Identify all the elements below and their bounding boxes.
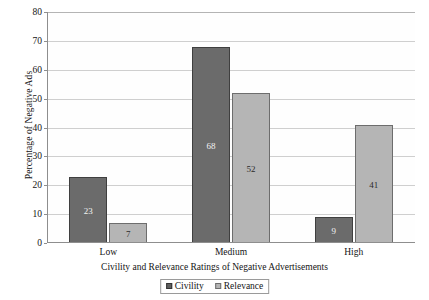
legend-label: Civility: [175, 281, 204, 291]
bar-value-label: 52: [233, 165, 269, 174]
gridline: 70: [47, 41, 415, 42]
bar-medium-relevance: 52: [232, 93, 270, 243]
y-tick-label: 40: [33, 123, 43, 133]
chart-legend: CivilityRelevance: [160, 279, 270, 294]
bar-medium-civility: 68: [192, 47, 230, 243]
bar-value-label: 68: [193, 142, 229, 151]
y-tick-label: 30: [33, 151, 43, 161]
legend-swatch-relevance-icon: [215, 283, 221, 289]
y-tick-label: 20: [33, 180, 43, 190]
x-category-medium: Medium: [215, 247, 247, 257]
bar-value-label: 9: [316, 227, 352, 236]
legend-item-relevance[interactable]: Relevance: [215, 281, 264, 291]
y-tick-mark: [44, 243, 47, 244]
y-tick-label: 10: [33, 209, 43, 219]
gridline: 80: [47, 12, 415, 13]
y-tick-label: 80: [33, 7, 43, 17]
y-tick-label: 60: [33, 65, 43, 75]
gridline: 60: [47, 70, 415, 71]
bar-high-relevance: 41: [355, 125, 393, 243]
x-axis-title: Civility and Relevance Ratings of Negati…: [0, 262, 429, 272]
y-tick-label: 70: [33, 36, 43, 46]
bar-low-civility: 23: [69, 177, 107, 243]
y-axis-line: [47, 12, 48, 243]
gridline: 0: [47, 243, 415, 244]
x-axis-line: [47, 242, 415, 243]
bar-value-label: 7: [110, 230, 146, 239]
bar-low-relevance: 7: [109, 223, 147, 243]
bar-value-label: 23: [70, 207, 106, 216]
bar-high-civility: 9: [315, 217, 353, 243]
bar-chart: Percentage of Negative Ads 0102030405060…: [0, 0, 429, 300]
legend-label: Relevance: [224, 281, 264, 291]
x-category-low: Low: [100, 247, 117, 257]
plot-area: 01020304050607080 2376852941: [47, 12, 415, 243]
legend-swatch-civility-icon: [166, 283, 172, 289]
legend-item-civility[interactable]: Civility: [166, 281, 204, 291]
gridline: 50: [47, 99, 415, 100]
x-category-high: High: [344, 247, 363, 257]
bar-value-label: 41: [356, 181, 392, 190]
y-tick-label: 50: [33, 94, 43, 104]
y-tick-label: 0: [37, 238, 42, 248]
